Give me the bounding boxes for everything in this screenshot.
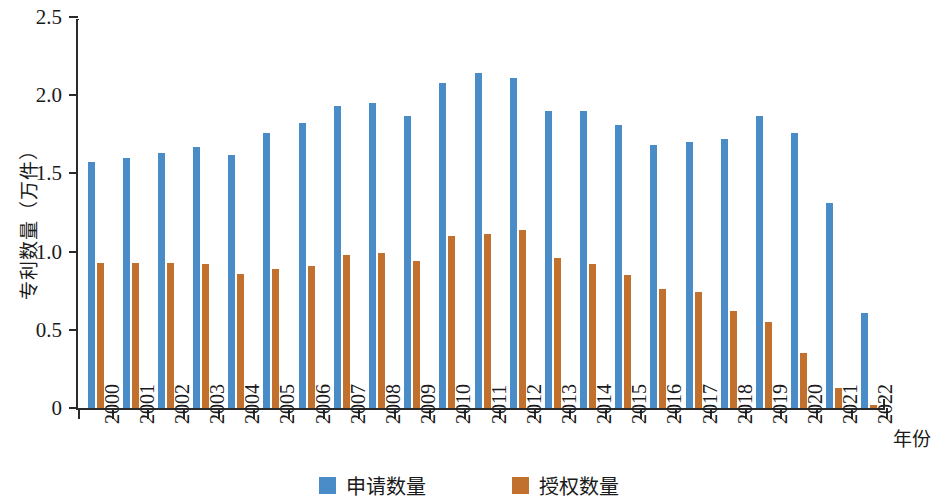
x-axis-title: 年份 [893, 424, 931, 451]
y-axis-tick: 0 [69, 407, 78, 409]
y-axis-tick-label: 1.0 [36, 239, 62, 264]
bar-apply[interactable] [650, 145, 657, 408]
legend-label: 授权数量 [539, 471, 619, 499]
y-axis-tick: 2.5 [69, 16, 78, 18]
bar-group [615, 19, 631, 408]
bar-group [228, 19, 244, 408]
bar-apply[interactable] [369, 103, 376, 408]
bar-group [510, 19, 526, 408]
bar-apply[interactable] [158, 153, 165, 408]
bar-apply[interactable] [826, 203, 833, 408]
y-axis-tick-label: 2.5 [36, 5, 62, 30]
bar-apply[interactable] [123, 158, 130, 408]
y-axis-tick: 1.0 [69, 251, 78, 253]
bar-apply[interactable] [861, 313, 868, 408]
y-axis-tick-label: 2.0 [36, 83, 62, 108]
x-axis-tick-label: 2000 [101, 384, 124, 424]
x-axis-tick-label: 2005 [276, 384, 299, 424]
bar-apply[interactable] [263, 133, 270, 408]
bar-group [686, 19, 702, 408]
x-axis-tick-label: 2022 [874, 384, 897, 424]
x-axis-tick-label: 2002 [171, 384, 194, 424]
x-axis-tick-label: 2015 [628, 384, 651, 424]
x-axis-tick-label: 2001 [136, 384, 159, 424]
bar-group [334, 19, 350, 408]
y-axis-top-cap [77, 19, 79, 20]
legend-item[interactable]: 申请数量 [319, 471, 426, 499]
x-axis-tick [78, 408, 80, 419]
bar-group [650, 19, 666, 408]
x-axis-tick-label: 2021 [839, 384, 862, 424]
x-axis-tick-label: 2004 [241, 384, 264, 424]
x-axis-tick-label: 2009 [417, 384, 440, 424]
x-axis-tick-label: 2016 [663, 384, 686, 424]
x-axis-tick-label: 2019 [769, 384, 792, 424]
y-axis-tick-label: 0 [52, 396, 63, 421]
y-axis-tick: 0.5 [69, 329, 78, 331]
bar-apply[interactable] [475, 73, 482, 408]
y-axis-title: 专利数量（万件） [14, 105, 41, 335]
x-axis-tick-label: 2003 [206, 384, 229, 424]
y-axis-tick-label: 0.5 [36, 317, 62, 342]
bar-group [404, 19, 420, 408]
bar-apply[interactable] [193, 147, 200, 408]
legend-item[interactable]: 授权数量 [512, 471, 619, 499]
x-axis-tick-label: 2011 [488, 385, 511, 424]
x-axis-tick-label: 2008 [382, 384, 405, 424]
patent-quantity-bar-chart: 专利数量（万件） 00.51.01.52.02.5 20002001200220… [0, 0, 938, 499]
bar-group [721, 19, 737, 408]
bar-group [439, 19, 455, 408]
legend-label: 申请数量 [346, 471, 426, 499]
bar-group [299, 19, 315, 408]
x-axis-tick-label: 2014 [593, 384, 616, 424]
x-axis-tick-label: 2018 [734, 384, 757, 424]
bar-apply[interactable] [580, 111, 587, 408]
bar-apply[interactable] [615, 125, 622, 408]
bar-group [580, 19, 596, 408]
bar-group [545, 19, 561, 408]
legend-swatch-apply [319, 477, 336, 494]
bar-apply[interactable] [228, 155, 235, 408]
x-axis-tick-label: 2006 [312, 384, 335, 424]
bar-group [123, 19, 139, 408]
chart-legend: 申请数量授权数量 [0, 471, 938, 499]
legend-swatch-granted [512, 477, 529, 494]
bar-granted[interactable] [484, 234, 491, 408]
bar-apply[interactable] [756, 116, 763, 408]
bar-group [861, 19, 877, 408]
bar-apply[interactable] [721, 139, 728, 408]
y-axis-tick: 1.5 [69, 172, 78, 174]
bar-group [193, 19, 209, 408]
bar-group [263, 19, 279, 408]
y-axis-tick: 2.0 [69, 94, 78, 96]
y-axis-tick-label: 1.5 [36, 161, 62, 186]
bar-granted[interactable] [519, 230, 526, 408]
bar-group [88, 19, 104, 408]
bar-group [791, 19, 807, 408]
bar-group [826, 19, 842, 408]
bar-apply[interactable] [439, 83, 446, 408]
bar-apply[interactable] [545, 111, 552, 408]
x-axis-tick-label: 2007 [347, 384, 370, 424]
bar-group [756, 19, 772, 408]
bar-group [369, 19, 385, 408]
bar-group [475, 19, 491, 408]
bar-apply[interactable] [791, 133, 798, 408]
plot-area: 00.51.01.52.02.5 [76, 19, 885, 410]
bar-apply[interactable] [510, 78, 517, 408]
bar-granted[interactable] [448, 236, 455, 408]
bar-apply[interactable] [686, 142, 693, 408]
x-axis-tick-label: 2020 [804, 384, 827, 424]
bar-apply[interactable] [404, 116, 411, 408]
bar-apply[interactable] [334, 106, 341, 408]
x-axis-tick-label: 2017 [699, 384, 722, 424]
x-axis-tick-label: 2013 [558, 384, 581, 424]
x-axis-tick-label: 2010 [452, 384, 475, 424]
bar-apply[interactable] [88, 162, 95, 408]
x-axis-tick-label: 2012 [523, 384, 546, 424]
bar-apply[interactable] [299, 123, 306, 408]
bar-group [158, 19, 174, 408]
